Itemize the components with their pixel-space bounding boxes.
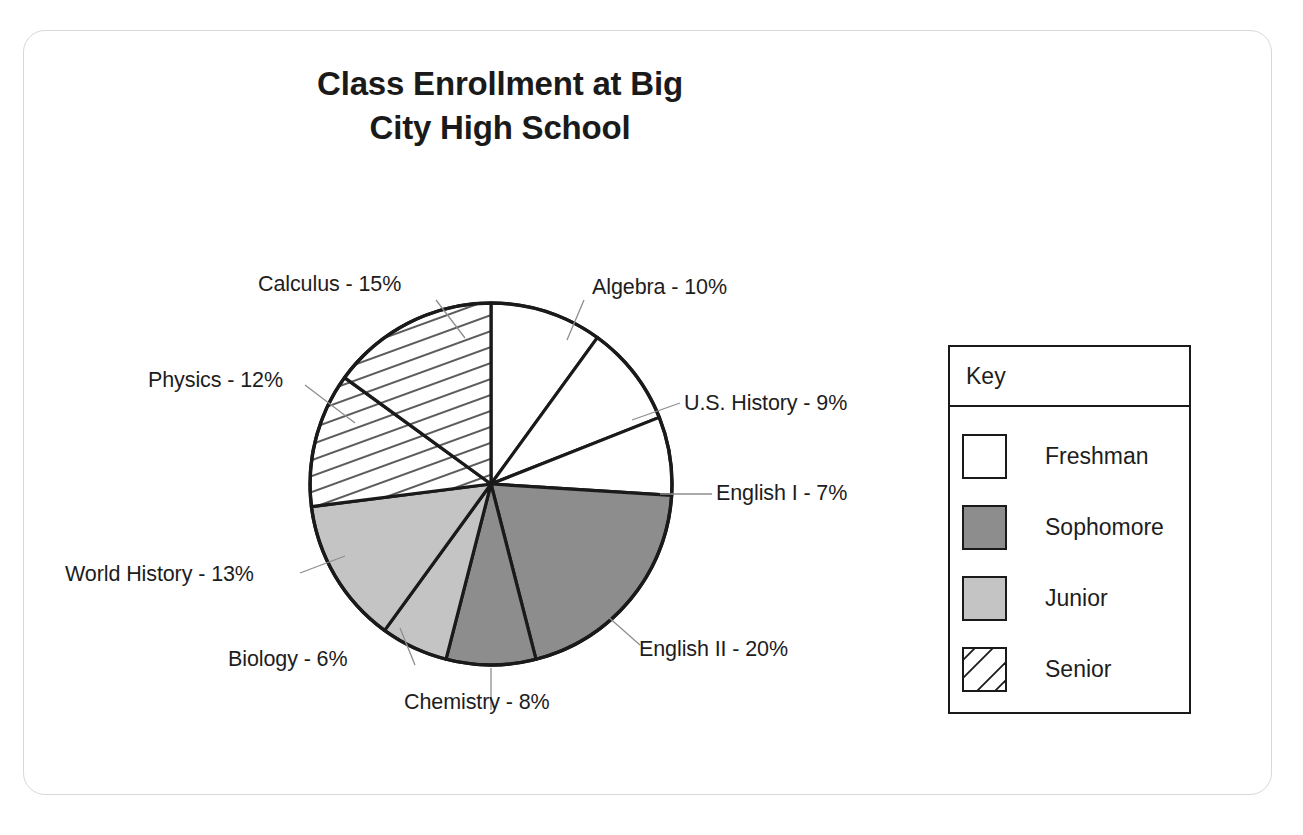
legend-swatch-senior-icon — [962, 647, 1007, 692]
legend-label-junior: Junior — [1045, 585, 1108, 612]
legend-item-senior[interactable]: Senior — [962, 634, 1189, 705]
legend-swatch-sophomore-icon — [962, 505, 1007, 550]
legend-item-freshman[interactable]: Freshman — [962, 421, 1189, 492]
slice-label-world-history: World History - 13% — [65, 562, 254, 587]
legend-header-label: Key — [966, 363, 1006, 390]
legend-item-sophomore[interactable]: Sophomore — [962, 492, 1189, 563]
hatch-swatch-icon — [964, 649, 1005, 690]
legend-items: Freshman Sophomore Junior — [950, 407, 1189, 705]
legend-item-junior[interactable]: Junior — [962, 563, 1189, 634]
legend-swatch-junior-icon — [962, 576, 1007, 621]
legend-label-freshman: Freshman — [1045, 443, 1149, 470]
legend-key-box: Key Freshman Sophomore Junior — [948, 345, 1191, 714]
slice-label-chemistry: Chemistry - 8% — [404, 690, 550, 715]
slice-label-calculus: Calculus - 15% — [258, 272, 401, 297]
pie-chart-page: Class Enrollment at Big City High School — [0, 0, 1303, 835]
slice-label-physics: Physics - 12% — [148, 368, 283, 393]
legend-label-senior: Senior — [1045, 656, 1111, 683]
slice-label-algebra: Algebra - 10% — [592, 275, 727, 300]
legend-swatch-freshman-icon — [962, 434, 1007, 479]
legend-header: Key — [950, 347, 1189, 407]
slice-label-us-history: U.S. History - 9% — [684, 391, 847, 416]
legend-label-sophomore: Sophomore — [1045, 514, 1164, 541]
leader-english-2 — [606, 615, 640, 645]
slice-label-english-1: English I - 7% — [716, 481, 847, 506]
slice-label-english-2: English II - 20% — [639, 637, 788, 662]
slice-label-biology: Biology - 6% — [228, 647, 348, 672]
